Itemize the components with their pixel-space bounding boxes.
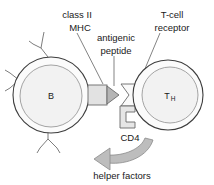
label-receptor: receptor [155,22,190,33]
cd4-shape [120,106,135,128]
t-cell-label: T [164,91,170,101]
surface-antibody-top-left [29,32,48,57]
label-antigenic: antigenic [97,32,135,43]
label-mhc: MHC [69,22,91,33]
label-cd4: CD4 [120,132,139,143]
label-helper-factors: helper factors [93,170,151,181]
immunology-diagram: B T H class II MHC antigenic peptide T-c… [0,0,214,185]
t-cell-label-subscript: H [171,95,176,102]
b-cell-label: B [48,91,54,101]
figure-canvas: B T H class II MHC antigenic peptide T-c… [0,0,214,185]
label-class-ii: class II [62,9,92,20]
class-ii-mhc-shape [88,85,107,105]
label-peptide: peptide [100,45,131,56]
antigenic-peptide-shape [107,86,119,104]
label-tcell: T-cell [161,9,184,20]
